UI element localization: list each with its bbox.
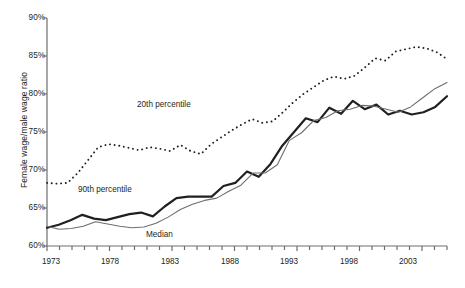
series-line-median (47, 83, 447, 230)
plot-area (0, 0, 465, 288)
series-line-20th-percentile (47, 47, 447, 184)
series-line-90th-percentile (47, 96, 447, 227)
axis-lines (43, 18, 447, 251)
chart-figure: Female wage/male wage ratio 90% 85% 80% … (0, 0, 465, 288)
